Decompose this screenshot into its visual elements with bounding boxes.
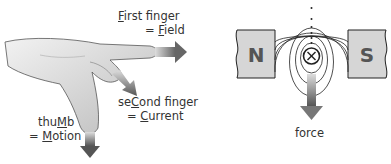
motion-label: = Motion bbox=[29, 130, 81, 143]
wire-into-page-icon bbox=[304, 48, 320, 64]
north-pole-label: N bbox=[248, 43, 265, 67]
second-finger-label: seCond finger bbox=[118, 96, 198, 109]
south-pole-label: S bbox=[360, 43, 374, 67]
field-arrow-icon bbox=[155, 41, 187, 63]
field-line-markers bbox=[311, 7, 313, 44]
motion-arrow-icon bbox=[80, 132, 100, 158]
current-arrow-icon bbox=[112, 70, 137, 96]
first-finger-label: First finger bbox=[118, 10, 180, 23]
current-label: = Current bbox=[127, 110, 184, 123]
force-label: force bbox=[295, 126, 324, 140]
thumb-label: thuMb bbox=[38, 116, 74, 129]
field-label: = Field bbox=[145, 24, 185, 37]
